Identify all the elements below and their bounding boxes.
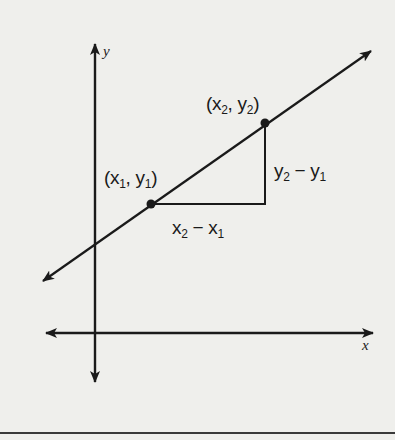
separator: , — [126, 167, 136, 188]
x-var: x — [212, 93, 221, 114]
x-axis-label: x — [362, 338, 368, 353]
bottom-rule — [0, 432, 395, 434]
point-1-label: (x1, y1) — [104, 168, 157, 187]
y-var: y — [136, 167, 145, 188]
y-var: y — [238, 93, 247, 114]
point-2-label: (x2, y2) — [206, 94, 259, 113]
x-var: x — [110, 167, 119, 188]
paren-close: ) — [151, 167, 157, 188]
point-2-marker — [261, 119, 270, 128]
run-b-subscript: 1 — [218, 227, 224, 241]
separator: , — [228, 93, 238, 114]
run-b: x — [208, 217, 217, 238]
rise-label: y2 − y1 — [274, 161, 326, 180]
rise-b: y — [310, 160, 319, 181]
run-a: x — [172, 217, 181, 238]
minus-sign: − — [188, 217, 209, 238]
minus-sign: − — [290, 160, 311, 181]
rise-a: y — [274, 160, 283, 181]
run-label: x2 − x1 — [172, 218, 224, 237]
paren-close: ) — [253, 93, 259, 114]
slope-diagram: y x (x1, y1) (x2, y2) y2 − y1 x2 − x1 — [0, 0, 395, 440]
point-1-marker — [147, 200, 156, 209]
y-axis-label: y — [103, 44, 109, 59]
rise-b-subscript: 1 — [320, 170, 326, 184]
